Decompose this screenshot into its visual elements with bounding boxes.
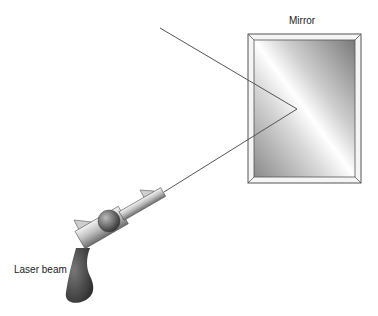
gun-handle [66,248,94,303]
mirror-label: Mirror [289,15,315,26]
laser-gun [66,183,168,302]
laser-beam-label: Laser beam [14,264,67,275]
mirror [248,34,361,183]
gun-chamber [98,210,120,232]
mirror-glass [254,40,355,177]
